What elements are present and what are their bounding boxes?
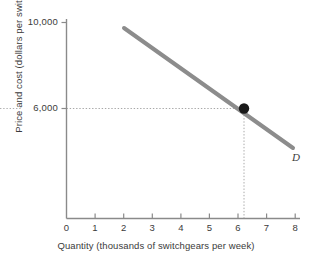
x-tick-label-7: 7 — [257, 222, 277, 233]
x-tick-label-8: 8 — [285, 222, 305, 233]
demand-curve-label: D — [292, 151, 300, 163]
x-tick-label-5: 5 — [199, 222, 219, 233]
x-tick-label-0: 0 — [57, 222, 77, 233]
y-axis-title-wrapper: Price and cost (dollars per switchgear) — [8, 0, 24, 150]
x-tick-label-4: 4 — [171, 222, 191, 233]
x-tick-label-2: 2 — [114, 222, 134, 233]
y-axis-title: Price and cost (dollars per switchgear) — [13, 0, 24, 133]
demand-curve-line — [124, 28, 293, 148]
chart-figure: 10,000 6,000 0 1 2 3 4 5 6 7 8 D Quantit… — [0, 0, 312, 260]
equilibrium-point-marker — [239, 103, 249, 113]
x-tick-marks — [95, 214, 295, 219]
chart-plot-area — [0, 0, 312, 260]
x-axis-title: Quantity (thousands of switchgears per w… — [0, 240, 312, 251]
x-tick-label-3: 3 — [142, 222, 162, 233]
x-tick-label-1: 1 — [85, 222, 105, 233]
x-tick-label-6: 6 — [228, 222, 248, 233]
